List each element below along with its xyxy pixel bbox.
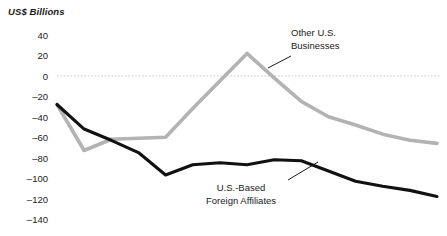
annotation-other-us-businesses: Other U.S. Businesses [291,26,340,52]
chart-container: US$ Billions 40 20 0 –20 –40 –60 –80 –10… [0,0,447,236]
annotation-affiliates-line-1: U.S.-Based [206,181,276,194]
annotation-other-line-2: Businesses [291,39,340,52]
series-line-other-us-businesses [57,53,437,150]
leader-line-other-us-businesses [268,56,291,68]
leader-line-us-based-foreign-affiliates [288,162,318,180]
annotation-us-based-foreign-affiliates: U.S.-Based Foreign Affiliates [206,181,276,207]
annotation-affiliates-line-2: Foreign Affiliates [206,194,276,207]
annotation-other-line-1: Other U.S. [291,26,340,39]
